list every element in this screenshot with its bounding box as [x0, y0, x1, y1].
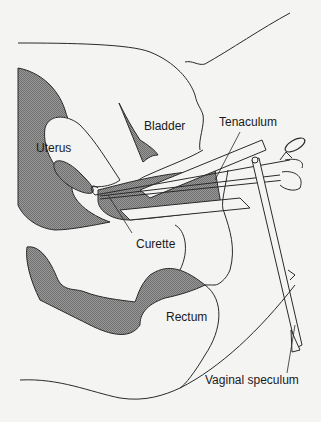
label-curette: Curette	[136, 238, 175, 250]
pubic-outline	[185, 13, 290, 64]
label-bladder: Bladder	[144, 120, 185, 132]
label-tenaculum: Tenaculum	[219, 116, 277, 128]
label-vaginal-speculum: Vaginal speculum	[205, 374, 299, 386]
anatomy-drawing	[0, 0, 321, 422]
diagram-canvas: Uterus Bladder Tenaculum Curette Rectum …	[0, 0, 321, 422]
label-rectum: Rectum	[166, 311, 207, 323]
label-uterus: Uterus	[36, 142, 71, 154]
hand	[280, 172, 301, 191]
